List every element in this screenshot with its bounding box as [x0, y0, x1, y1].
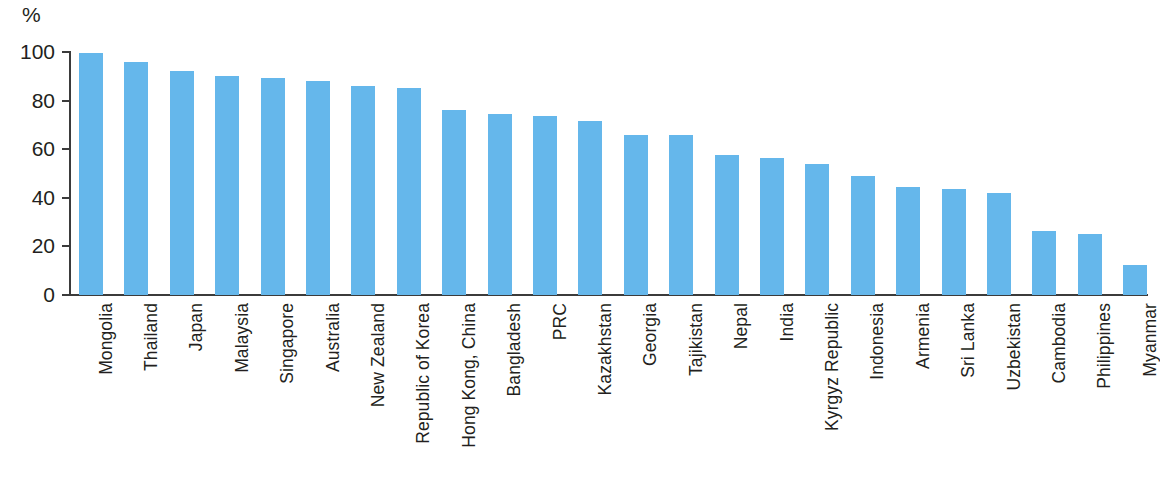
bar — [987, 193, 1011, 295]
bar — [533, 116, 557, 295]
x-axis-label: Philippines — [1096, 303, 1114, 389]
bar — [442, 110, 466, 295]
bar — [488, 114, 512, 295]
y-axis-tick-label-60: 60 — [0, 138, 55, 159]
bar — [851, 176, 875, 295]
bar — [261, 78, 285, 295]
x-axis-label: Kazakhstan — [597, 303, 615, 395]
bar — [578, 121, 602, 295]
bar — [760, 158, 784, 295]
y-axis-tick-label-80: 80 — [0, 90, 55, 111]
y-axis-tick-label-20: 20 — [0, 235, 55, 256]
bar — [397, 88, 421, 295]
y-axis-tick-label-0: 0 — [0, 284, 55, 305]
x-axis-label: Malaysia — [234, 303, 252, 373]
x-axis-label: Thailand — [143, 303, 161, 371]
x-axis-label: India — [779, 303, 797, 341]
bar — [170, 71, 194, 295]
x-axis-label: New Zealand — [370, 303, 388, 407]
bar — [1078, 234, 1102, 295]
bar — [215, 76, 239, 295]
x-axis-label: Sri Lanka — [960, 303, 978, 378]
bar — [351, 86, 375, 295]
x-axis-label: Bangladesh — [506, 303, 524, 396]
x-axis-label: Indonesia — [869, 303, 887, 380]
x-axis-label: Uzbekistan — [1006, 303, 1024, 391]
bar — [1032, 231, 1056, 295]
bar — [805, 164, 829, 295]
x-axis-label: Kyrgyz Republic — [824, 303, 842, 431]
x-axis-label: Republic of Korea — [415, 303, 433, 444]
x-axis-label: Myanmar — [1142, 303, 1160, 377]
x-axis-label: Tajikistan — [688, 303, 706, 376]
x-axis-label: Georgia — [642, 303, 660, 366]
bar — [942, 189, 966, 295]
x-axis-label: Japan — [188, 303, 206, 351]
bar — [306, 81, 330, 295]
bar — [669, 135, 693, 295]
x-axis-label: Nepal — [733, 303, 751, 349]
x-axis-label: Australia — [325, 303, 343, 372]
y-axis-tick-label-100: 100 — [0, 41, 55, 62]
x-axis-label: Cambodia — [1051, 303, 1069, 384]
x-axis-label: Hong Kong, China — [461, 303, 479, 448]
y-axis-tick-label-40: 40 — [0, 187, 55, 208]
y-axis-unit-label: % — [22, 4, 41, 25]
x-axis-label: Armenia — [915, 303, 933, 369]
bar — [1123, 265, 1147, 295]
bar — [896, 187, 920, 295]
x-axis-label: Mongolia — [98, 303, 116, 375]
bar — [624, 135, 648, 295]
bar — [715, 155, 739, 295]
plot-area — [70, 52, 1148, 295]
bar — [79, 53, 103, 295]
bar — [124, 62, 148, 295]
x-axis-label: PRC — [552, 303, 570, 340]
x-axis-label: Singapore — [279, 303, 297, 384]
